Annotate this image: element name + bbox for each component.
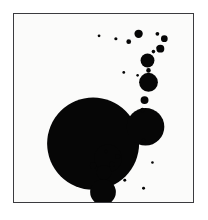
figure-root <box>0 0 208 220</box>
data-point-circle <box>142 139 146 143</box>
data-point-circle <box>156 46 160 50</box>
data-point-circle <box>146 68 151 73</box>
data-point-circle <box>114 37 117 40</box>
data-point-circle <box>140 108 144 112</box>
data-point-circle <box>132 154 135 157</box>
data-point-circle <box>104 150 107 153</box>
data-point-circle <box>122 71 125 74</box>
data-point-circle <box>123 179 126 182</box>
data-point-circle <box>126 39 131 44</box>
data-point-circle <box>134 30 142 38</box>
data-point-circle <box>98 34 101 37</box>
data-point-circle <box>127 108 165 146</box>
data-point-circle <box>151 161 154 164</box>
data-point-circle <box>139 73 158 92</box>
data-point-circle <box>97 165 112 180</box>
data-point-circle <box>141 96 149 104</box>
data-point-circle <box>109 162 114 167</box>
plot-panel <box>13 13 194 203</box>
scatter-plot-canvas <box>14 14 193 202</box>
data-point-circle <box>152 50 156 54</box>
data-point-circle <box>115 154 120 159</box>
data-point-circle <box>136 74 139 77</box>
data-point-circle <box>90 162 96 168</box>
data-point-circle <box>47 98 139 190</box>
data-point-circle <box>141 54 155 68</box>
data-point-circle <box>161 35 168 42</box>
data-point-circle <box>142 187 145 190</box>
data-point-circle <box>156 32 160 36</box>
